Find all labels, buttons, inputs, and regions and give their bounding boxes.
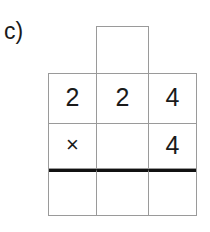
digit: 2 [66, 85, 80, 110]
grid-cell-r1c1[interactable]: 2 [49, 74, 97, 124]
grid-cell-r1c3[interactable]: 4 [149, 74, 196, 124]
carry-box-value [97, 27, 148, 74]
digit: 4 [166, 133, 180, 158]
grid-cell-r3c1[interactable] [49, 169, 97, 215]
grid-cell-r3c3[interactable] [149, 169, 196, 215]
grid-cell-r1c2[interactable]: 2 [97, 74, 149, 124]
digit: 4 [166, 85, 180, 110]
grid-cell-r2c2[interactable] [97, 124, 149, 169]
multiplication-grid: 2 2 4 × 4 [48, 73, 197, 216]
grid-cell-r2c1[interactable]: × [49, 124, 97, 169]
digit: 2 [116, 85, 130, 110]
worksheet-figure: c) 2 2 4 × 4 [0, 0, 210, 232]
carry-box[interactable] [96, 26, 149, 74]
grid-cell-r3c2[interactable] [97, 169, 149, 215]
part-label: c) [4, 17, 23, 45]
multiplication-operator: × [66, 134, 79, 156]
grid-cell-r2c3[interactable]: 4 [149, 124, 196, 169]
